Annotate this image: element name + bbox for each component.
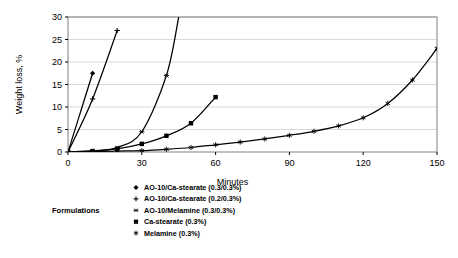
legend-item: AO-10/Ca-stearate (0.3/0.3%) (134, 183, 243, 192)
x-tick-label: 150 (429, 158, 444, 168)
y-tick-label: 0 (57, 147, 62, 157)
y-tick-label: 30 (52, 12, 62, 22)
y-tick-label: 10 (52, 102, 62, 112)
x-tick-label: 90 (284, 158, 294, 168)
legend-item-label: AO-10/Ca-stearate (0.3/0.3%) (144, 183, 242, 192)
filled-square-marker (164, 134, 168, 138)
legend-item: Ca-stearate (0.3%) (134, 217, 207, 226)
x-tick-label: 0 (65, 158, 70, 168)
x-tick-label: 30 (137, 158, 147, 168)
filled-square-marker (213, 95, 217, 99)
legend-item-label: AO-10/Melamine (0.3/0.3%) (144, 206, 236, 215)
filled-square-marker (134, 220, 138, 224)
weight-loss-line-chart: 051015202530 0306090120150 Minutes Weigh… (0, 0, 458, 258)
y-axis-title: Weight loss, % (14, 55, 24, 114)
legend-item: Melamine (0.3%) (134, 229, 201, 238)
legend-item-label: Ca-stearate (0.3%) (144, 217, 207, 226)
legend-item-label: Melamine (0.3%) (144, 229, 201, 238)
legend-item: AO-10/Ca-stearate (0.2/0.3%) (134, 194, 243, 203)
y-tick-label: 20 (52, 57, 62, 67)
filled-square-marker (140, 142, 144, 146)
legend-item: AO-10/Melamine (0.3/0.3%) (134, 206, 236, 215)
filled-square-marker (189, 121, 193, 125)
y-tick-label: 25 (52, 35, 62, 45)
x-tick-label: 60 (211, 158, 221, 168)
x-tick-label: 120 (356, 158, 371, 168)
y-tick-label: 5 (57, 125, 62, 135)
legend-group-title: Formulations (52, 206, 100, 215)
y-tick-label: 15 (52, 80, 62, 90)
chart-figure: 051015202530 0306090120150 Minutes Weigh… (0, 0, 458, 258)
legend-item-label: AO-10/Ca-stearate (0.2/0.3%) (144, 194, 242, 203)
